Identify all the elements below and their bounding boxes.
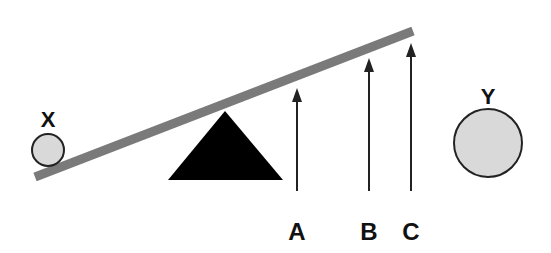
arrow-c bbox=[406, 43, 416, 191]
arrow-c-label: C bbox=[402, 218, 419, 245]
ball-x-label: X bbox=[41, 107, 56, 132]
ball-y bbox=[454, 109, 522, 177]
lever-diagram: X Y A B C bbox=[0, 0, 551, 253]
arrow-b bbox=[364, 58, 374, 191]
arrow-b-label: B bbox=[360, 218, 377, 245]
ball-y-label: Y bbox=[481, 84, 496, 109]
ball-x bbox=[32, 134, 64, 166]
arrow-a-label: A bbox=[288, 218, 305, 245]
arrow-a bbox=[292, 88, 302, 191]
